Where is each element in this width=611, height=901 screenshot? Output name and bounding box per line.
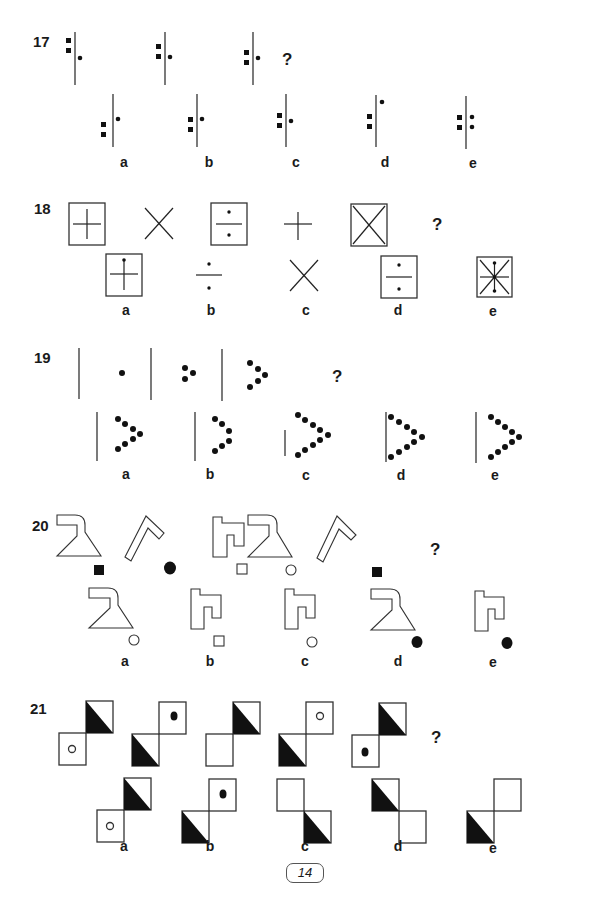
- q21-option-c[interactable]: [275, 778, 335, 846]
- q18-seq-4: [283, 211, 315, 243]
- question-number-17: 17: [33, 33, 50, 50]
- q21-option-e[interactable]: [465, 778, 525, 846]
- q18-seq-2: [143, 206, 175, 242]
- q20-seq-4: [247, 514, 307, 579]
- q18-option-e[interactable]: [476, 256, 516, 300]
- q18-seq-3: [210, 202, 250, 247]
- q21-seq-5: [350, 702, 410, 770]
- q18-option-b[interactable]: [193, 257, 225, 297]
- q19-option-b[interactable]: [193, 410, 253, 465]
- q21-label-c: c: [295, 838, 315, 854]
- q20-label-b: b: [200, 653, 220, 669]
- q20-label-d: d: [388, 653, 408, 669]
- question-number-21: 21: [30, 700, 47, 717]
- q18-label-c: c: [296, 302, 316, 318]
- q17-seq-1: [60, 30, 100, 90]
- q19-option-c[interactable]: [283, 410, 363, 470]
- q20-label-e: e: [483, 654, 503, 670]
- q21-label-a: a: [114, 838, 134, 854]
- q17-option-d[interactable]: [361, 92, 401, 152]
- question-mark-17: ?: [282, 50, 292, 70]
- question-number-19: 19: [34, 349, 51, 366]
- q19-label-b: b: [200, 466, 220, 482]
- question-mark-20: ?: [430, 540, 440, 560]
- q18-option-c[interactable]: [288, 258, 320, 294]
- q20-seq-5: [316, 515, 386, 580]
- q20-option-c[interactable]: [284, 588, 324, 648]
- q20-label-c: c: [295, 653, 315, 669]
- q17-option-e[interactable]: [451, 92, 491, 152]
- question-mark-21: ?: [431, 728, 441, 748]
- q17-label-b: b: [199, 154, 219, 170]
- q20-label-a: a: [115, 653, 135, 669]
- q18-label-a: a: [116, 302, 136, 318]
- q17-label-e: e: [463, 155, 483, 171]
- q21-option-a[interactable]: [95, 777, 155, 845]
- q18-label-b: b: [201, 302, 221, 318]
- q21-seq-2: [130, 701, 190, 769]
- q19-label-d: d: [391, 467, 411, 483]
- q21-seq-4: [277, 701, 337, 769]
- page-number: 14: [286, 863, 324, 883]
- q17-label-a: a: [114, 154, 134, 170]
- q17-seq-2: [150, 30, 190, 90]
- q19-label-c: c: [296, 467, 316, 483]
- q20-option-b[interactable]: [190, 588, 230, 648]
- q18-label-d: d: [388, 302, 408, 318]
- q17-option-a[interactable]: [98, 92, 138, 152]
- q19-label-a: a: [116, 466, 136, 482]
- q18-seq-5: [350, 203, 390, 249]
- question-mark-19: ?: [332, 367, 342, 387]
- q17-option-c[interactable]: [271, 92, 311, 152]
- q19-option-a[interactable]: [95, 410, 155, 465]
- q18-option-a[interactable]: [105, 253, 145, 297]
- q20-option-e[interactable]: [474, 590, 524, 650]
- q20-seq-1: [55, 514, 105, 579]
- q19-label-e: e: [485, 467, 505, 483]
- q18-seq-1: [68, 202, 108, 246]
- q18-label-e: e: [483, 303, 503, 319]
- q20-option-d[interactable]: [370, 588, 430, 648]
- q19-option-e[interactable]: [474, 410, 554, 470]
- q21-seq-3: [204, 701, 264, 769]
- q21-label-e: e: [483, 840, 503, 856]
- q17-label-c: c: [286, 154, 306, 170]
- q20-option-a[interactable]: [88, 587, 148, 647]
- question-mark-18: ?: [432, 215, 442, 235]
- q17-option-b[interactable]: [182, 92, 222, 152]
- question-number-20: 20: [32, 517, 49, 534]
- question-number-18: 18: [34, 200, 51, 217]
- q17-label-d: d: [375, 154, 395, 170]
- q21-seq-1: [57, 700, 117, 768]
- q21-option-b[interactable]: [180, 778, 240, 846]
- q20-seq-2: [124, 515, 182, 580]
- q21-option-d[interactable]: [370, 778, 430, 846]
- q21-label-b: b: [200, 838, 220, 854]
- q21-label-d: d: [388, 838, 408, 854]
- q19-seq: [75, 346, 315, 406]
- q19-option-d[interactable]: [384, 410, 464, 470]
- q18-option-d[interactable]: [380, 255, 420, 300]
- q20-seq-3: [212, 516, 252, 581]
- q17-seq-3: [238, 30, 278, 90]
